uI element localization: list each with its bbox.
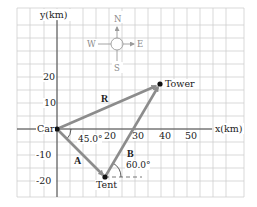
- y-tick-neg10: -10: [36, 149, 51, 160]
- angle-b-label: 60.0°: [126, 160, 151, 170]
- vector-r-label: R: [101, 93, 109, 104]
- car-label: Car: [37, 123, 55, 134]
- angle-a-label: 45.0°: [78, 134, 103, 144]
- angle-arc-60: [113, 163, 121, 177]
- compass-east: E: [137, 39, 143, 49]
- tower-label: Tower: [165, 78, 195, 89]
- vector-a-label: A: [74, 155, 82, 166]
- car-point: [54, 126, 59, 131]
- x-tick-20: 20: [104, 130, 116, 141]
- compass-west: W: [87, 39, 96, 49]
- y-tick-10: 10: [44, 97, 56, 108]
- vector-displacement-diagram: y(km) x(km) 20 10 -10 -20 20 30 40 50 N …: [0, 0, 257, 207]
- compass-north: N: [114, 14, 122, 24]
- vector-b-label: B: [127, 148, 134, 159]
- compass-circle-icon: [111, 38, 123, 50]
- x-tick-labels: 20 30 40 50: [103, 130, 198, 141]
- x-tick-40: 40: [159, 130, 171, 141]
- x-tick-30: 30: [132, 130, 144, 141]
- y-tick-neg20: -20: [36, 175, 51, 186]
- axes: [17, 20, 212, 197]
- y-axis-label: y(km): [39, 9, 68, 20]
- y-tick-20: 20: [43, 71, 55, 82]
- tent-label: Tent: [96, 179, 117, 190]
- tower-point: [157, 81, 162, 86]
- x-axis-label: x(km): [215, 123, 243, 134]
- compass-south: S: [114, 63, 120, 73]
- x-tick-50: 50: [185, 130, 197, 141]
